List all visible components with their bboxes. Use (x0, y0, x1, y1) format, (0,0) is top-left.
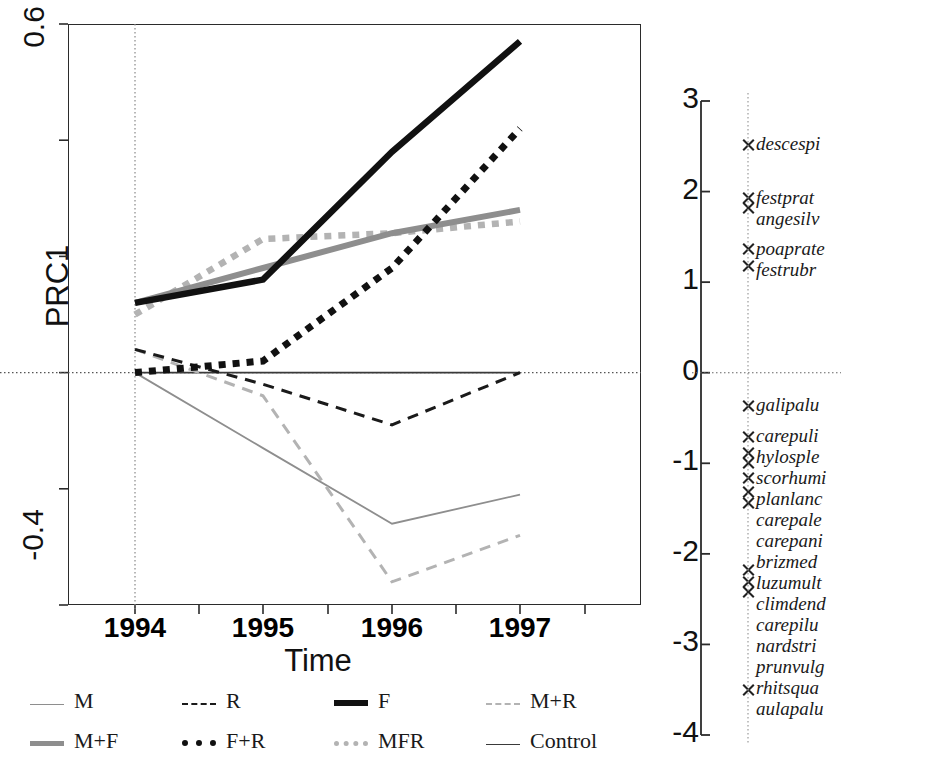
species-marker-x-icon (741, 495, 756, 510)
x-axis-tick-label-1997: 1997 (465, 612, 575, 644)
legend-item-r[interactable]: R (182, 684, 334, 718)
legend-item-m-f[interactable]: M+F (30, 724, 182, 758)
species-marker-x-icon (741, 137, 756, 152)
legend-item-f-r[interactable]: F+R (182, 724, 334, 758)
species-tick-label-0: 0 (655, 353, 699, 387)
species-label: prunvulg (756, 656, 825, 678)
legend-swatch-icon (30, 704, 64, 705)
species-label: galipalu (756, 394, 819, 416)
legend-label: F+R (226, 728, 265, 754)
species-label: hylosple (756, 446, 819, 468)
species-tick-label-neg3: -3 (655, 624, 699, 658)
species-label: carepilu (756, 614, 819, 636)
legend-swatch-icon (182, 703, 216, 705)
species-tick-label-3: 3 (655, 81, 699, 115)
legend-label: R (226, 688, 241, 714)
species-marker-x-icon (741, 683, 756, 698)
species-label: nardstri (756, 635, 817, 657)
species-marker-x-icon (741, 259, 756, 274)
legend-item-m-r[interactable]: M+R (486, 684, 638, 718)
legend-item-control[interactable]: Control (486, 724, 638, 758)
species-marker-x-icon (741, 398, 756, 413)
species-weights-panel: 3210-1-2-3-4descespifestpratangesilvpoap… (680, 0, 926, 774)
species-label: carepuli (756, 425, 819, 447)
species-label: poaprate (756, 238, 825, 260)
legend-swatch-icon (182, 740, 216, 746)
species-label: brizmed (756, 551, 817, 573)
legend-label: F (378, 688, 390, 714)
legend-swatch-icon (334, 741, 368, 746)
species-tick-label-neg4: -4 (655, 715, 699, 749)
legend-label: M+F (74, 728, 118, 754)
y-axis-tick-label-top: 0.6 (17, 0, 51, 55)
species-label: descespi (756, 133, 820, 155)
y-axis-tick-label-bottom: -0.4 (16, 502, 50, 568)
x-axis-tick-label-1996: 1996 (337, 612, 447, 644)
species-label: angesilv (756, 208, 819, 230)
species-tick-label-1: 1 (655, 262, 699, 296)
legend-item-mfr[interactable]: MFR (334, 724, 486, 758)
legend: MRFM+R M+FF+RMFRControl (30, 684, 670, 762)
species-label: aulapalu (756, 698, 824, 720)
y-axis-title: PRC1 (40, 226, 76, 346)
species-label: climdend (756, 593, 826, 615)
species-label: rhitsqua (756, 677, 819, 699)
species-label: carepani (756, 530, 823, 552)
plot-frame (68, 24, 641, 605)
legend-label: Control (530, 728, 597, 754)
legend-swatch-icon (486, 744, 520, 745)
species-label: carepale (756, 509, 822, 531)
legend-swatch-icon (334, 700, 368, 706)
species-label: festrubr (756, 259, 816, 281)
prc-chart-panel: PRC1 0.6 -0.4 1994 1995 1996 1997 Time M… (0, 0, 680, 774)
species-label: luzumult (756, 572, 821, 594)
x-axis-title: Time (218, 643, 418, 679)
legend-row-2: M+FF+RMFRControl (30, 724, 670, 758)
legend-label: M+R (530, 688, 577, 714)
species-marker-x-icon (741, 242, 756, 257)
species-tick-label-neg2: -2 (655, 534, 699, 568)
legend-label: MFR (378, 728, 424, 754)
legend-item-f[interactable]: F (334, 684, 486, 718)
species-marker-x-icon (741, 429, 756, 444)
species-tick-label-neg1: -1 (655, 443, 699, 477)
species-label: festprat (756, 187, 814, 209)
species-label: planlanc (756, 488, 823, 510)
legend-row-1: MRFM+R (30, 684, 670, 718)
legend-swatch-icon (30, 741, 64, 746)
species-label: scorhumi (756, 467, 826, 489)
legend-swatch-icon (486, 703, 520, 705)
species-marker-x-icon (741, 585, 756, 600)
legend-item-m[interactable]: M (30, 684, 182, 718)
species-marker-x-icon (741, 455, 756, 470)
species-marker-x-icon (741, 201, 756, 216)
prc-figure: PRC1 0.6 -0.4 1994 1995 1996 1997 Time M… (0, 0, 926, 774)
legend-label: M (74, 688, 94, 714)
x-axis-tick-label-1994: 1994 (80, 612, 190, 644)
x-axis-tick-label-1995: 1995 (208, 612, 318, 644)
species-tick-label-2: 2 (655, 172, 699, 206)
